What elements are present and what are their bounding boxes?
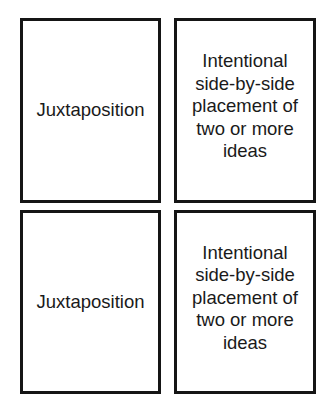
term-text: Juxtaposition: [33, 291, 149, 314]
definition-text: Intentional side-by-side placement of tw…: [188, 242, 302, 355]
term-text: Juxtaposition: [33, 99, 149, 122]
definition-card: Intentional side-by-side placement of tw…: [174, 18, 316, 203]
term-card: Juxtaposition: [20, 18, 161, 203]
definition-card: Intentional side-by-side placement of tw…: [174, 210, 316, 394]
definition-text: Intentional side-by-side placement of tw…: [188, 50, 302, 163]
term-card: Juxtaposition: [20, 210, 161, 394]
